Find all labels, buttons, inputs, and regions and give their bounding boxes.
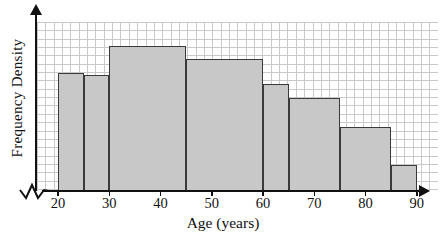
x-tick-label: 60 — [249, 196, 277, 211]
x-tick-label: 20 — [44, 196, 72, 211]
x-tick-label: 80 — [352, 196, 380, 211]
x-tick-label: 50 — [198, 196, 226, 211]
x-tick-label: 30 — [95, 196, 123, 211]
histogram-bar — [58, 73, 84, 191]
histogram-bar — [340, 127, 391, 191]
x-tick-label: 40 — [147, 196, 175, 211]
x-axis-title: Age (years) — [160, 214, 286, 232]
histogram-bar — [186, 59, 263, 191]
y-axis-title: Frequency Density — [7, 18, 27, 178]
y-axis-arrow-icon — [30, 4, 42, 15]
histogram-bar — [391, 165, 417, 191]
x-tick-label: 90 — [403, 196, 431, 211]
histogram-bar — [109, 46, 186, 191]
y-axis-line — [35, 10, 37, 191]
histogram-figure: 2030405060708090 Frequency Density Age (… — [0, 0, 443, 241]
histogram-bar — [263, 84, 289, 191]
x-tick-label: 70 — [300, 196, 328, 211]
histogram-bar — [84, 75, 110, 191]
histogram-bar — [289, 98, 340, 191]
